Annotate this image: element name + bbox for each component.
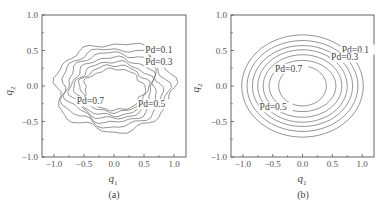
- svg-text:−0.5: −0.5: [265, 159, 282, 169]
- svg-text:1.0: 1.0: [356, 159, 368, 169]
- contour-label: Pd=0.7: [77, 96, 105, 106]
- svg-text:1.0: 1.0: [168, 159, 180, 169]
- svg-text:0.5: 0.5: [216, 46, 228, 56]
- svg-text:1.0: 1.0: [27, 10, 39, 20]
- svg-text:−1.0: −1.0: [235, 159, 252, 169]
- contour-label: Pd=0.1: [145, 45, 173, 55]
- x-axis-label: q1: [298, 172, 308, 187]
- svg-text:0.5: 0.5: [27, 46, 39, 56]
- svg-text:−0.5: −0.5: [211, 117, 228, 127]
- svg-text:1.0: 1.0: [216, 10, 228, 20]
- svg-text:0.0: 0.0: [108, 159, 120, 169]
- contour-plot-b: −1.0−0.50.00.51.01.00.50.0−0.5−1.0 Pd=0.…: [190, 0, 381, 203]
- svg-text:−0.5: −0.5: [22, 117, 39, 127]
- y-axis-label: q2: [190, 83, 204, 93]
- svg-text:−0.5: −0.5: [76, 159, 93, 169]
- panel-label: (b): [297, 189, 309, 201]
- svg-text:−1.0: −1.0: [211, 152, 228, 162]
- svg-text:0.5: 0.5: [138, 159, 150, 169]
- svg-text:0.5: 0.5: [327, 159, 339, 169]
- contour-label: Pd=0.3: [331, 52, 359, 62]
- contour-label: Pd=0.5: [138, 99, 166, 109]
- svg-text:0.0: 0.0: [216, 81, 228, 91]
- contour-label: Pd=0.7: [275, 64, 303, 74]
- svg-text:−1.0: −1.0: [46, 159, 63, 169]
- panel-label: (a): [108, 189, 119, 201]
- axes-frame: −1.0−0.50.00.51.01.00.50.0−0.5−1.0: [211, 10, 374, 169]
- x-axis-label: q1: [109, 172, 119, 187]
- axes-frame: −1.0−0.50.00.51.01.00.50.0−0.5−1.0: [22, 10, 186, 169]
- contour-plot-a: −1.0−0.50.00.51.01.00.50.0−0.5−1.0 Pd=0.…: [0, 0, 190, 203]
- y-axis-label: q2: [2, 86, 17, 96]
- svg-text:−1.0: −1.0: [22, 152, 39, 162]
- svg-text:0.0: 0.0: [297, 159, 309, 169]
- contour-label: Pd=0.3: [145, 57, 173, 67]
- svg-text:0.0: 0.0: [27, 81, 39, 91]
- contour-label: Pd=0.5: [260, 102, 288, 112]
